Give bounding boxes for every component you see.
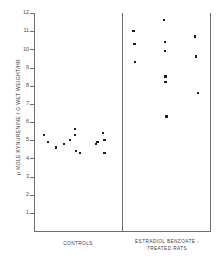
y-tick-label-3: 3	[15, 174, 29, 179]
group-label-treated-line1: ESTRADIOL BENZOATE -	[120, 239, 214, 246]
scatter-plot-figure: μ MOLE KYNURENINE / G WET WEIGHT/HR 1234…	[0, 0, 217, 268]
group-label-treated: ESTRADIOL BENZOATE - TREATED RATS	[120, 239, 214, 252]
data-point	[164, 81, 166, 83]
data-point	[164, 41, 166, 43]
data-point	[164, 75, 166, 77]
data-point	[195, 55, 197, 57]
data-point	[55, 146, 57, 148]
y-tick-9	[30, 68, 35, 69]
data-point	[133, 43, 135, 45]
y-tick-label-4: 4	[15, 156, 29, 161]
data-point	[69, 139, 71, 141]
y-tick-4	[30, 158, 35, 159]
data-point	[43, 134, 45, 136]
data-point	[103, 139, 105, 141]
data-point	[134, 61, 136, 63]
data-point	[103, 152, 105, 154]
y-tick-label-8: 8	[15, 83, 29, 88]
y-tick-label-5: 5	[15, 137, 29, 142]
y-tick-label-7: 7	[15, 101, 29, 106]
y-tick-6	[30, 122, 35, 123]
y-tick-label-6: 6	[15, 119, 29, 124]
y-tick-label-11: 11	[15, 28, 29, 33]
y-tick-label-1: 1	[15, 210, 29, 215]
y-tick-label-10: 10	[15, 47, 29, 52]
data-point	[197, 92, 199, 94]
y-tick-label-12: 12	[15, 10, 29, 15]
y-tick-label-9: 9	[15, 65, 29, 70]
y-tick-label-2: 2	[15, 192, 29, 197]
data-point	[194, 35, 196, 37]
data-point	[163, 19, 165, 21]
data-point	[164, 50, 166, 52]
group-label-controls: CONTROLS	[34, 241, 122, 248]
group-label-treated-line2: TREATED RATS	[120, 246, 214, 253]
right-border-line	[210, 13, 211, 231]
data-point	[96, 141, 98, 143]
y-axis-label: μ MOLE KYNURENINE / G WET WEIGHT/HR	[12, 2, 24, 232]
y-tick-1	[30, 213, 35, 214]
y-tick-12	[30, 13, 35, 14]
y-tick-8	[30, 86, 35, 87]
data-point	[132, 30, 134, 32]
data-point	[165, 115, 167, 117]
data-point	[47, 141, 49, 143]
data-point	[63, 143, 65, 145]
data-point	[75, 150, 77, 152]
data-point	[74, 128, 76, 130]
data-point	[79, 152, 81, 154]
data-point	[102, 132, 104, 134]
y-tick-5	[30, 140, 35, 141]
group-label-controls-text: CONTROLS	[34, 241, 122, 248]
data-point	[74, 134, 76, 136]
x-axis-line	[34, 231, 211, 232]
y-tick-7	[30, 104, 35, 105]
y-tick-11	[30, 31, 35, 32]
y-tick-3	[30, 177, 35, 178]
group-divider-line	[122, 13, 123, 231]
y-tick-2	[30, 195, 35, 196]
y-tick-10	[30, 49, 35, 50]
